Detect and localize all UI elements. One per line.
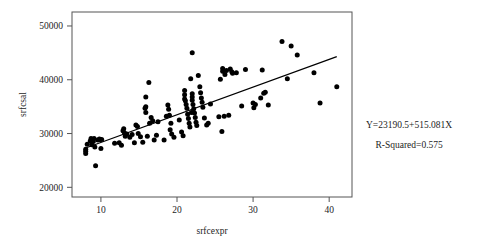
- y-tick-label: 40000: [39, 75, 63, 85]
- data-point: [200, 100, 205, 105]
- data-point: [194, 123, 199, 128]
- data-point: [190, 98, 195, 103]
- chart-canvas: 1020304020000300004000050000 srfcexprsrf…: [0, 0, 477, 250]
- data-point: [258, 96, 263, 101]
- data-point: [226, 113, 231, 118]
- data-point: [119, 143, 124, 148]
- data-point: [145, 134, 150, 139]
- data-point: [181, 133, 186, 138]
- y-axis-title: srfcsal: [18, 92, 28, 117]
- data-points: [83, 39, 339, 168]
- fit-line: [86, 57, 337, 148]
- data-point: [263, 90, 268, 95]
- data-point: [318, 100, 323, 105]
- data-point: [216, 114, 221, 119]
- data-point: [165, 103, 170, 108]
- data-point: [83, 151, 88, 156]
- y-tick-label: 30000: [39, 129, 63, 139]
- data-point: [260, 68, 265, 73]
- data-point: [121, 126, 126, 131]
- data-point: [168, 121, 173, 126]
- data-point: [196, 73, 201, 78]
- data-point: [253, 102, 258, 107]
- regression-line: [86, 57, 337, 148]
- data-point: [186, 116, 191, 121]
- data-point: [199, 96, 204, 101]
- data-point: [222, 114, 227, 119]
- data-point: [218, 77, 223, 82]
- data-point: [187, 125, 192, 130]
- data-point: [143, 94, 148, 99]
- data-point: [168, 127, 173, 132]
- data-point: [177, 118, 182, 123]
- data-point: [280, 39, 285, 44]
- data-point: [311, 70, 316, 75]
- data-point: [193, 115, 198, 120]
- data-point: [171, 135, 176, 140]
- data-point: [132, 140, 137, 145]
- y-tick-label: 50000: [39, 21, 63, 31]
- data-point: [202, 115, 207, 120]
- data-point: [154, 133, 159, 138]
- data-point: [166, 107, 171, 112]
- x-axis-title: srfcexpr: [196, 226, 228, 236]
- data-point: [140, 140, 145, 145]
- data-point: [219, 129, 224, 134]
- data-point: [146, 80, 151, 85]
- data-point: [152, 137, 157, 142]
- regression-annotations: Y=23190.5+515.081XR-Squared=0.575: [366, 120, 452, 150]
- equation-annotation: Y=23190.5+515.081X: [366, 120, 452, 130]
- r-squared-annotation: R-Squared=0.575: [375, 140, 443, 150]
- data-point: [182, 88, 187, 93]
- data-point: [197, 84, 202, 89]
- data-point: [138, 134, 143, 139]
- data-point: [143, 104, 148, 109]
- data-point: [143, 110, 148, 115]
- data-point: [266, 103, 271, 108]
- data-point: [289, 43, 294, 48]
- y-tick-label: 20000: [39, 183, 63, 193]
- data-point: [239, 104, 244, 109]
- x-tick-label: 20: [172, 205, 182, 215]
- data-point: [182, 92, 187, 97]
- data-point: [295, 53, 300, 58]
- data-point: [234, 70, 239, 75]
- data-point: [206, 121, 211, 126]
- data-point: [162, 137, 167, 142]
- data-point: [98, 146, 103, 151]
- data-point: [198, 90, 203, 95]
- data-point: [192, 111, 197, 116]
- data-point: [243, 67, 248, 72]
- scatter-plot-figure: 1020304020000300004000050000 srfcexprsrf…: [0, 0, 477, 250]
- x-tick-label: 10: [96, 205, 106, 215]
- data-point: [334, 84, 339, 89]
- data-point: [112, 141, 117, 146]
- data-point: [190, 50, 195, 55]
- x-tick-label: 40: [324, 205, 334, 215]
- x-tick-label: 30: [248, 205, 258, 215]
- data-point: [285, 76, 290, 81]
- data-point: [190, 102, 195, 107]
- axis-ticks: [67, 26, 329, 202]
- data-point: [188, 76, 193, 81]
- data-point: [130, 132, 135, 137]
- data-point: [93, 163, 98, 168]
